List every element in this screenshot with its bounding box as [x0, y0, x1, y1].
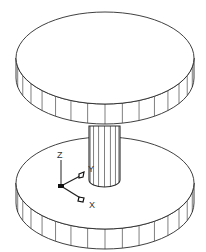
x-axis-label: X	[89, 200, 95, 210]
ucs-origin-marker	[58, 184, 64, 188]
y-axis-label: Y	[88, 164, 94, 174]
top-disk	[16, 12, 194, 124]
top-disk-top-face	[16, 12, 194, 104]
cad-drawing: Z Y X	[0, 0, 206, 252]
z-axis-label: Z	[57, 150, 63, 160]
x-axis-arrow-icon	[78, 197, 84, 202]
shaft-cylinder	[89, 126, 120, 187]
